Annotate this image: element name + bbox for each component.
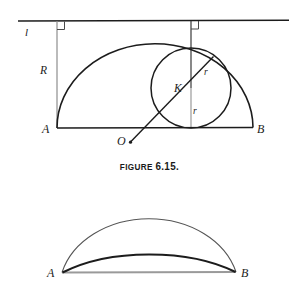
segment-AB — [57, 128, 253, 129]
right-angle-marker-right — [191, 21, 199, 29]
label-point-B: B — [257, 122, 265, 136]
label-point-A: A — [41, 122, 50, 136]
arc-inner-thick — [63, 254, 236, 272]
point-O-dot — [129, 141, 132, 144]
arc-large-semicircle — [57, 44, 253, 128]
label-point-B-bottom: B — [241, 266, 249, 280]
caption-prefix: FIGURE — [120, 161, 156, 172]
figure-page: l R A B O K r r FIGURE 6.15. A B — [0, 0, 299, 297]
label-radius-r-lower: r — [193, 106, 197, 116]
figure-bottom-diagram: A B — [0, 185, 299, 297]
label-line-l: l — [25, 26, 28, 38]
segment-AB-bottom — [62, 272, 236, 273]
caption-number: 6.15. — [155, 160, 179, 172]
label-radius-r-upper: r — [204, 67, 208, 77]
figure-caption: FIGURE 6.15. — [21, 160, 278, 172]
figure-top-diagram: l R A B O K r r — [0, 0, 299, 155]
label-point-O: O — [117, 134, 126, 148]
line-O-K-tangent — [130, 57, 214, 143]
label-center-K: K — [173, 82, 183, 94]
arc-outer-thin — [62, 219, 236, 273]
label-point-A-bottom: A — [46, 266, 55, 280]
right-angle-marker-left — [57, 22, 65, 30]
line-l — [18, 20, 289, 21]
label-radius-R: R — [39, 64, 47, 76]
